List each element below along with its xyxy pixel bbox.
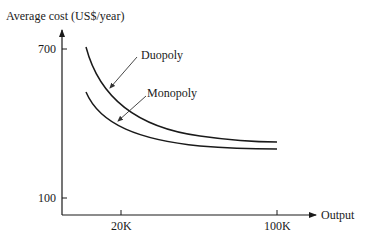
monopoly-label: Monopoly [147, 87, 197, 99]
y-axis-title: Average cost (US$/year) [6, 10, 124, 22]
y-tick-label-700: 700 [38, 43, 56, 55]
duopoly-label: Duopoly [141, 49, 183, 61]
duopoly-leader-arrow [110, 57, 137, 88]
y-tick-label-100: 100 [38, 192, 56, 204]
x-tick-label-100k: 100K [264, 220, 291, 232]
x-tick-label-20k: 20K [111, 220, 132, 232]
x-axis-title: Output [321, 209, 354, 221]
monopoly-leader-arrow [118, 96, 146, 121]
